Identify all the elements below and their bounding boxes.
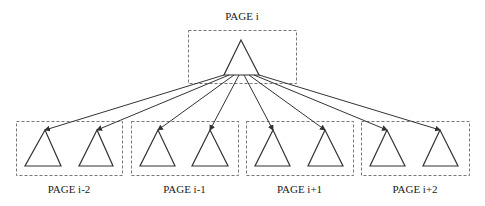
page-tree-diagram: [0, 0, 485, 206]
child-page-label: PAGE i+1: [277, 183, 322, 195]
child-page-label: PAGE i-2: [48, 183, 91, 195]
child-tree-triangle: [423, 130, 458, 166]
child-page-box: [17, 122, 123, 176]
parent-page-label: PAGE i: [225, 10, 259, 22]
child-tree-triangle: [308, 130, 343, 166]
child-page-box: [132, 122, 239, 176]
child-tree-triangle: [370, 130, 405, 166]
child-tree-triangle: [79, 130, 113, 166]
child-tree-triangle: [192, 130, 228, 166]
child-page-label: PAGE i+2: [392, 183, 437, 195]
child-tree-triangle: [140, 130, 175, 166]
child-page-label: PAGE i-1: [163, 183, 206, 195]
child-tree-triangle: [255, 130, 290, 166]
child-page-box: [247, 122, 354, 176]
child-tree-triangle: [25, 130, 61, 166]
parent-tree-triangle: [224, 40, 259, 75]
